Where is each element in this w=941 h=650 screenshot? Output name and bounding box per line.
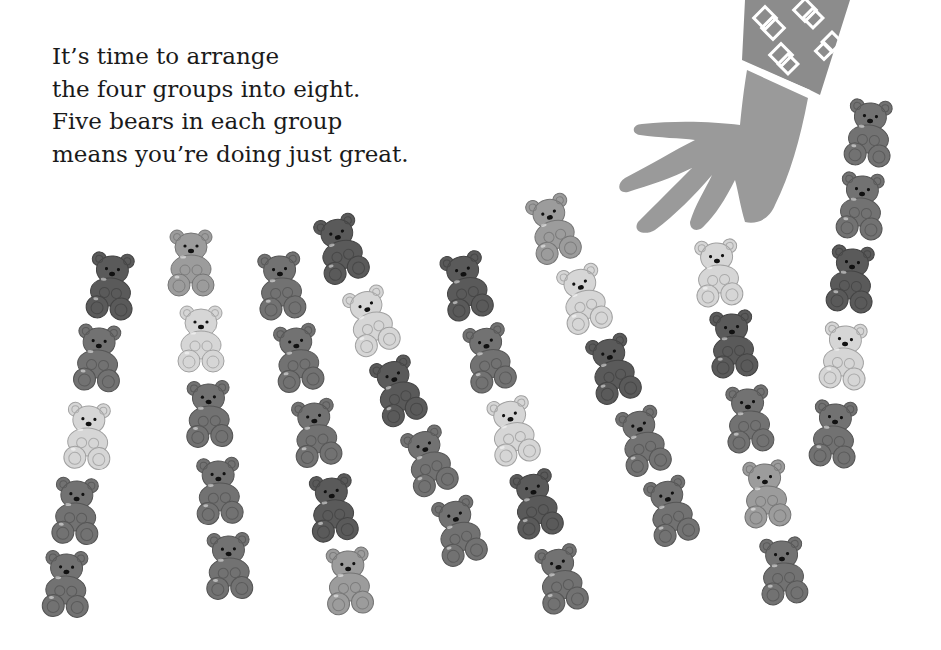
gummy-bear-icon xyxy=(285,394,347,473)
gummy-bear-light[interactable] xyxy=(175,303,227,375)
gummy-bear-mid[interactable] xyxy=(48,474,104,549)
gummy-bear-icon xyxy=(70,320,127,395)
gummy-bear-mid[interactable] xyxy=(832,168,890,244)
gummy-bear-lightmid[interactable] xyxy=(165,227,217,299)
gummy-bear-icon xyxy=(754,533,812,609)
gummy-bear-icon xyxy=(704,306,762,382)
gummy-bear-light[interactable] xyxy=(60,399,116,474)
gummy-bear-icon xyxy=(267,319,329,398)
gummy-bear-icon xyxy=(48,474,104,549)
gummy-bear-mid[interactable] xyxy=(39,547,93,621)
hand-shape xyxy=(619,70,808,233)
gummy-bear-mid[interactable] xyxy=(202,529,256,603)
gummy-bear-icon xyxy=(832,168,890,244)
gummy-bear-dark[interactable] xyxy=(82,248,140,324)
gummy-bear-mid[interactable] xyxy=(267,319,329,398)
gummy-bear-dark[interactable] xyxy=(822,241,880,317)
gummy-bear-mid[interactable] xyxy=(805,396,863,472)
gummy-bear-icon xyxy=(822,241,880,317)
gummy-bear-lightmid[interactable] xyxy=(321,543,378,618)
gummy-bear-icon xyxy=(175,303,227,375)
gummy-bear-mid[interactable] xyxy=(70,320,127,395)
gummy-bear-dark[interactable] xyxy=(704,306,762,382)
gummy-bear-icon xyxy=(805,396,863,472)
gummy-bear-mid[interactable] xyxy=(191,454,247,529)
gummy-bear-icon xyxy=(39,547,93,621)
gummy-bear-light[interactable] xyxy=(815,318,873,394)
gummy-bear-light[interactable] xyxy=(689,235,747,311)
gummy-bear-mid[interactable] xyxy=(720,381,778,457)
gummy-bear-icon xyxy=(840,95,898,171)
gummy-bear-mid[interactable] xyxy=(252,248,310,324)
gummy-bear-mid[interactable] xyxy=(182,377,236,451)
gummy-bear-mid[interactable] xyxy=(285,394,347,473)
gummy-bear-dark[interactable] xyxy=(303,469,362,546)
gummy-bear-icon xyxy=(303,469,362,546)
gummy-bear-icon xyxy=(689,235,747,311)
gummy-bear-icon xyxy=(321,543,378,618)
gummy-bear-mid[interactable] xyxy=(754,533,812,609)
gummy-bear-icon xyxy=(737,456,795,532)
gummy-bear-icon xyxy=(165,227,217,299)
gummy-bear-icon xyxy=(60,399,116,474)
gummy-bear-mid[interactable] xyxy=(840,95,898,171)
gummy-bear-icon xyxy=(202,529,256,603)
gummy-bear-icon xyxy=(720,381,778,457)
gummy-bear-icon xyxy=(182,377,236,451)
gummy-bear-icon xyxy=(815,318,873,394)
gummy-bear-lightmid[interactable] xyxy=(737,456,795,532)
gummy-bear-icon xyxy=(82,248,140,324)
gummy-bear-icon xyxy=(252,248,310,324)
gummy-bear-icon xyxy=(191,454,247,529)
